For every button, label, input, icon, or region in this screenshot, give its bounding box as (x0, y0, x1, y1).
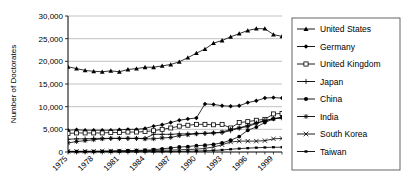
marker-open-square (304, 62, 308, 66)
marker-small-square (135, 150, 138, 152)
marker-triangle (194, 51, 199, 55)
marker-filled-circle (237, 135, 241, 139)
marker-diamond (203, 102, 207, 106)
x-axis-tick-label: 1978 (76, 154, 95, 173)
marker-small-square (272, 146, 275, 148)
x-axis-tick-label: 1990 (179, 154, 198, 173)
marker-diamond (186, 117, 190, 121)
x-axis-tick-label: 1999 (256, 154, 275, 173)
marker-diamond (237, 104, 241, 108)
marker-diamond (151, 124, 155, 128)
marker-small-square (169, 150, 172, 152)
marker-open-square (109, 131, 113, 135)
marker-open-square (169, 126, 173, 130)
marker-open-square (126, 130, 130, 134)
marker-triangle (66, 64, 71, 68)
legend-label: China (320, 94, 342, 104)
series-united-kingdom (66, 111, 284, 135)
marker-open-square (194, 122, 198, 126)
marker-small-square (118, 150, 121, 152)
marker-filled-circle (195, 144, 199, 148)
marker-small-square (263, 146, 266, 148)
y-axis-tick-label: 30,000 (39, 12, 64, 21)
marker-small-square (195, 150, 198, 152)
series-line (68, 29, 282, 72)
marker-open-square (92, 131, 96, 135)
x-axis-tick-label: 1996 (230, 154, 249, 173)
y-axis-tick-label: 10,000 (39, 103, 64, 112)
y-axis-tick-label: 20,000 (39, 57, 64, 66)
y-axis-tick-label: 25,000 (39, 35, 64, 44)
x-axis-tick-label: 1981 (102, 154, 121, 173)
marker-diamond (228, 104, 232, 108)
marker-diamond (194, 116, 198, 120)
y-axis-title: Number of Doctorates (9, 45, 18, 123)
marker-small-square (238, 147, 241, 149)
marker-diamond (254, 99, 258, 103)
marker-open-square (117, 131, 121, 135)
marker-open-square (83, 131, 87, 135)
marker-diamond (263, 96, 267, 100)
marker-diamond (220, 104, 224, 108)
marker-small-square (186, 150, 189, 152)
marker-open-square (186, 123, 190, 127)
marker-open-square (220, 122, 224, 126)
marker-small-square (178, 150, 181, 152)
marker-triangle (271, 32, 276, 36)
marker-filled-circle (304, 97, 308, 101)
y-axis-tick-label: 15,000 (39, 80, 64, 89)
marker-small-square (109, 151, 112, 153)
marker-open-square (160, 127, 164, 131)
marker-small-square (161, 150, 164, 152)
legend-label: United States (320, 24, 371, 34)
marker-open-square (237, 121, 241, 125)
x-axis-tick-label: 1984 (128, 154, 147, 173)
series-south-korea (66, 136, 284, 153)
marker-small-square (281, 146, 284, 148)
marker-open-square (134, 130, 138, 134)
marker-small-square (144, 150, 147, 152)
marker-small-square (126, 150, 129, 152)
series-united-states (66, 26, 285, 73)
marker-diamond (271, 95, 275, 99)
legend-label: India (320, 112, 339, 122)
marker-small-square (246, 147, 249, 149)
marker-diamond (211, 102, 215, 106)
marker-triangle (108, 68, 113, 72)
marker-open-square (177, 124, 181, 128)
marker-open-square (203, 122, 207, 126)
marker-small-square (255, 147, 258, 149)
marker-small-square (75, 151, 78, 153)
marker-open-square (66, 131, 70, 135)
doctorates-line-chart: 05,00010,00015,00020,00025,00030,0001975… (0, 0, 406, 194)
marker-diamond (177, 118, 181, 122)
legend-label: Germany (320, 42, 356, 52)
marker-small-square (305, 150, 308, 152)
marker-small-square (84, 151, 87, 153)
marker-diamond (280, 96, 284, 100)
marker-open-square (143, 130, 147, 134)
marker-open-square (75, 131, 79, 135)
x-axis-tick-label: 1987 (153, 154, 172, 173)
marker-small-square (101, 151, 104, 153)
marker-small-square (229, 148, 232, 150)
marker-open-square (280, 111, 284, 115)
marker-diamond (169, 120, 173, 124)
marker-small-square (204, 150, 207, 152)
legend-label: United Kingdom (320, 59, 380, 69)
legend-label: South Korea (320, 129, 368, 139)
legend-label: Japan (320, 77, 343, 87)
marker-small-square (212, 149, 215, 151)
marker-triangle (185, 55, 190, 59)
marker-small-square (92, 151, 95, 153)
marker-open-square (100, 131, 104, 135)
legend-label: Taiwan (320, 147, 347, 157)
x-axis-tick-label: 1993 (205, 154, 224, 173)
marker-open-square (271, 112, 275, 116)
marker-diamond (160, 123, 164, 127)
marker-small-square (221, 149, 224, 151)
marker-diamond (246, 100, 250, 104)
marker-triangle (203, 47, 208, 51)
marker-open-square (212, 123, 216, 127)
chart-figure: 05,00010,00015,00020,00025,00030,0001975… (0, 0, 406, 194)
